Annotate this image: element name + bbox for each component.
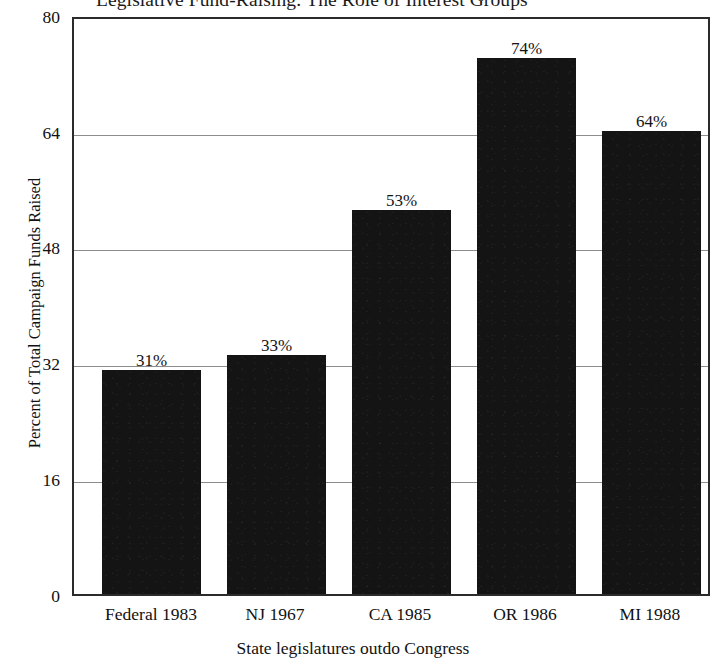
chart-title: Legislative Fund-Raising: The Role of In…: [96, 0, 714, 11]
bar-federal-1983: [102, 370, 201, 594]
x-tick-label-mi-1988: MI 1988: [570, 604, 714, 625]
bar-nj-1967: [227, 355, 326, 594]
x-axis-label: State legislatures outdo Congress: [0, 638, 706, 659]
bar-value-mi-1988: 64%: [602, 112, 701, 135]
bar-or-1986: [477, 58, 576, 594]
bar-value-or-1986: 74%: [477, 39, 576, 62]
y-tick-label-16: 16: [43, 470, 61, 491]
bar-ca-1985: [352, 210, 451, 594]
bar-value-ca-1985: 53%: [352, 191, 451, 214]
y-tick-label-64: 64: [43, 123, 61, 144]
bar-value-federal-1983: 31%: [102, 351, 201, 374]
bar-value-nj-1967: 33%: [227, 336, 326, 359]
bar-mi-1988: [602, 131, 701, 594]
y-axis-tick-labels: 0 16 32 48 64 80: [0, 0, 72, 671]
plot-area: 31% 33% 53% 74% 64%: [72, 17, 710, 596]
y-tick-label-48: 48: [43, 238, 61, 259]
y-tick-label-0: 0: [51, 586, 60, 607]
y-tick-label-80: 80: [43, 7, 61, 28]
y-tick-label-32: 32: [43, 354, 61, 375]
